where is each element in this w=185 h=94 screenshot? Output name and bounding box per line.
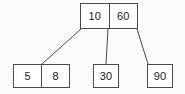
leaf-right-key-cell-1: 90 — [148, 65, 172, 87]
root-key-cell-1: 10 — [81, 4, 109, 28]
edge-root-to-middle-leaf — [106, 29, 108, 64]
leaf-node-right: 90 — [147, 64, 173, 88]
leaf-node-middle: 30 — [93, 64, 119, 88]
leaf-node-left: 5 8 — [13, 64, 70, 88]
root-key-cell-2: 60 — [109, 4, 138, 28]
root-node: 10 60 — [80, 3, 138, 29]
edge-root-to-left-leaf — [42, 29, 81, 64]
leaf-left-key-cell-2: 8 — [41, 65, 69, 87]
edge-root-to-right-leaf — [137, 29, 148, 64]
leaf-left-key-cell-1: 5 — [14, 65, 41, 87]
leaf-middle-key-cell-1: 30 — [94, 65, 118, 87]
btree-diagram: 10 60 5 8 30 90 — [0, 0, 185, 94]
